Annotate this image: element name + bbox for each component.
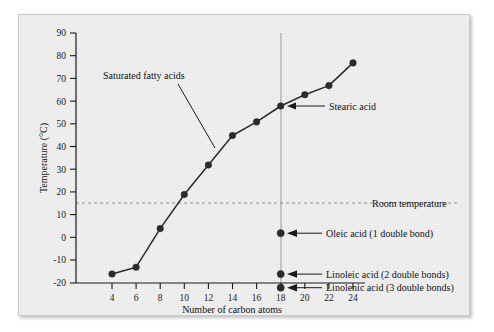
y-tick-label: 20 [57,187,67,197]
x-tick-label: 8 [158,293,163,303]
data-point [181,191,188,198]
data-point-linoleic [277,271,284,278]
annotation-arrow-linoleic [287,270,297,277]
y-axis-ticks: 90 80 70 60 50 40 30 20 10 0 -10 -20 [53,28,76,288]
y-tick-label: 60 [57,97,67,107]
x-tick-label: 10 [180,293,190,303]
data-point [229,132,236,139]
x-tick-label: 22 [324,293,334,303]
data-point-oleic [277,230,284,237]
data-point [253,119,260,126]
y-tick-label: 30 [57,165,67,175]
annotation-arrow-stearic [287,102,296,109]
x-tick-label: 4 [110,293,115,303]
annotation-label-linoleic: Linoleic acid (2 double bonds) [326,269,449,281]
annotation-label-oleic: Oleic acid (1 double bond) [326,228,433,240]
x-tick-label: 16 [252,293,262,303]
annotation-leader-saturated [178,84,215,148]
annotation-label-room-temperature: Room temperature [372,198,447,209]
annotation-label-linolenic: Linolenic acid (3 double bonds) [326,282,454,294]
y-tick-label: 0 [61,233,66,243]
annotation-linoleic-acid: Linoleic acid (2 double bonds) [287,269,449,281]
annotation-arrow-oleic [287,230,297,237]
data-point [277,103,284,110]
saturated-series-line [112,63,353,274]
x-tick-label: 14 [228,293,238,303]
annotation-label-stearic: Stearic acid [329,101,376,112]
chart-plot-area: 90 80 70 60 50 40 30 20 10 0 -10 -20 [0,0,494,332]
annotation-stearic-acid: Stearic acid [287,101,376,112]
data-point-linolenic [277,284,284,291]
x-tick-label: 18 [276,293,286,303]
y-tick-label: 80 [57,51,67,61]
saturated-series-points [109,60,357,278]
data-point [302,91,309,98]
data-point [205,162,212,169]
data-point [109,271,116,278]
y-tick-label: -10 [53,255,66,265]
data-point [350,60,357,67]
x-axis-title: Number of carbon atoms [182,304,282,315]
y-tick-label: 10 [57,210,67,220]
data-point [133,264,140,271]
x-tick-label: 12 [204,293,214,303]
figure-root: 90 80 70 60 50 40 30 20 10 0 -10 -20 [0,0,494,332]
y-tick-label: -20 [53,278,66,288]
y-tick-label: 40 [57,142,67,152]
y-tick-label: 50 [57,119,67,129]
data-point [157,225,164,232]
x-tick-label: 24 [348,293,358,303]
x-tick-label: 6 [134,293,139,303]
y-tick-label: 70 [57,74,67,84]
data-point [326,82,333,89]
annotation-label-saturated: Saturated fatty acids [103,70,185,81]
annotation-oleic-acid: Oleic acid (1 double bond) [287,228,433,240]
annotation-arrow-linolenic [287,284,297,291]
x-tick-label: 20 [300,293,310,303]
annotation-linolenic-acid: Linolenic acid (3 double bonds) [287,282,454,294]
x-axis-ticks: 4 6 8 10 12 14 16 18 20 22 24 [110,283,358,303]
annotation-saturated-fatty-acids: Saturated fatty acids [103,70,215,148]
y-tick-label: 90 [57,28,67,38]
y-axis-title: Temperature (°C) [38,123,50,193]
